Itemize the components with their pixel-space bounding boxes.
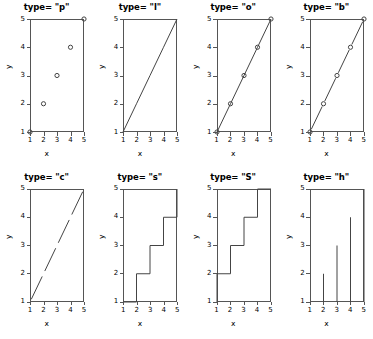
- y-tick-label: 5: [16, 185, 25, 192]
- x-tick-mark: [137, 132, 138, 136]
- x-tick-label: 2: [39, 137, 49, 144]
- x-tick-mark: [137, 302, 138, 306]
- y-tick-label: 2: [203, 270, 212, 277]
- x-tick-mark: [230, 132, 231, 136]
- y-tick-mark: [120, 273, 124, 274]
- plot-data-s: [123, 189, 177, 302]
- y-tick-label: 4: [16, 213, 25, 220]
- y-tick-label: 2: [296, 100, 305, 107]
- y-tick-label: 1: [109, 298, 118, 305]
- y-tick-label: 3: [16, 72, 25, 79]
- y-tick-label: 3: [203, 72, 212, 79]
- x-tick-mark: [177, 302, 178, 306]
- x-axis-label: x: [93, 319, 186, 328]
- x-tick-label: 4: [345, 137, 355, 144]
- y-tick-mark: [213, 19, 217, 20]
- y-tick-label: 1: [203, 129, 212, 136]
- y-tick-mark: [27, 273, 31, 274]
- panel-title: type= "o": [187, 2, 280, 12]
- y-tick-label: 3: [296, 242, 305, 249]
- y-tick-mark: [120, 189, 124, 190]
- x-tick-mark: [217, 302, 218, 306]
- y-tick-mark: [306, 104, 310, 105]
- y-tick-label: 2: [203, 100, 212, 107]
- x-tick-label: 4: [252, 137, 262, 144]
- panel-type-h: type= "h"1234512345xy: [280, 170, 373, 339]
- x-tick-mark: [30, 132, 31, 136]
- x-tick-label: 4: [252, 307, 262, 314]
- y-tick-mark: [306, 47, 310, 48]
- y-tick-label: 3: [203, 242, 212, 249]
- y-tick-mark: [306, 245, 310, 246]
- y-tick-mark: [306, 19, 310, 20]
- y-tick-mark: [27, 104, 31, 105]
- y-tick-mark: [306, 76, 310, 77]
- y-tick-label: 2: [109, 100, 118, 107]
- x-tick-mark: [123, 132, 124, 136]
- y-tick-label: 1: [16, 129, 25, 136]
- plot-data-c: [30, 189, 84, 302]
- y-tick-mark: [213, 273, 217, 274]
- y-tick-label: 2: [109, 270, 118, 277]
- x-tick-label: 1: [305, 137, 315, 144]
- panel-title: type= "s": [93, 172, 186, 182]
- x-tick-mark: [271, 132, 272, 136]
- x-tick-mark: [150, 302, 151, 306]
- x-tick-mark: [71, 302, 72, 306]
- x-tick-mark: [57, 302, 58, 306]
- panel-title: type= "b": [280, 2, 373, 12]
- y-tick-label: 3: [16, 242, 25, 249]
- x-axis-label: x: [280, 149, 373, 158]
- y-tick-label: 4: [203, 213, 212, 220]
- x-tick-mark: [177, 132, 178, 136]
- panel-type-o: type= "o"1234512345xy: [187, 0, 280, 170]
- y-tick-mark: [120, 245, 124, 246]
- x-tick-label: 3: [239, 137, 249, 144]
- y-tick-label: 2: [16, 100, 25, 107]
- x-tick-label: 2: [318, 137, 328, 144]
- x-axis-label: x: [0, 319, 93, 328]
- panel-title: type= "c": [0, 172, 93, 182]
- x-tick-label: 5: [266, 137, 276, 144]
- x-tick-mark: [244, 302, 245, 306]
- panel-type-S: type= "S"1234512345xy: [187, 170, 280, 339]
- plot-data-p: [30, 19, 84, 132]
- x-tick-mark: [84, 132, 85, 136]
- y-tick-mark: [27, 47, 31, 48]
- x-tick-mark: [310, 132, 311, 136]
- y-tick-mark: [27, 245, 31, 246]
- y-tick-label: 3: [296, 72, 305, 79]
- y-tick-label: 1: [16, 298, 25, 305]
- y-tick-label: 5: [109, 185, 118, 192]
- y-tick-label: 4: [16, 44, 25, 51]
- x-tick-mark: [310, 302, 311, 306]
- y-tick-label: 4: [203, 44, 212, 51]
- y-axis-label: y: [4, 234, 13, 238]
- y-axis-label: y: [191, 234, 200, 238]
- y-tick-label: 5: [16, 16, 25, 23]
- x-tick-label: 2: [318, 307, 328, 314]
- x-tick-mark: [84, 302, 85, 306]
- y-axis-label: y: [284, 65, 293, 69]
- y-axis-label: y: [97, 234, 106, 238]
- x-tick-label: 5: [266, 307, 276, 314]
- x-tick-label: 1: [118, 137, 128, 144]
- x-tick-label: 2: [132, 137, 142, 144]
- panel-type-s: type= "s"1234512345xy: [93, 170, 186, 339]
- y-tick-mark: [120, 104, 124, 105]
- y-tick-mark: [213, 245, 217, 246]
- x-tick-mark: [244, 132, 245, 136]
- y-tick-mark: [213, 189, 217, 190]
- y-tick-mark: [120, 19, 124, 20]
- y-tick-mark: [213, 104, 217, 105]
- x-tick-label: 1: [118, 307, 128, 314]
- x-tick-label: 1: [25, 307, 35, 314]
- y-tick-mark: [213, 217, 217, 218]
- x-tick-label: 2: [132, 307, 142, 314]
- panel-title: type= "h": [280, 172, 373, 182]
- panel-type-c: type= "c"1234512345xy: [0, 170, 93, 339]
- y-tick-mark: [27, 217, 31, 218]
- y-tick-mark: [27, 19, 31, 20]
- x-axis-label: x: [187, 319, 280, 328]
- x-tick-mark: [323, 132, 324, 136]
